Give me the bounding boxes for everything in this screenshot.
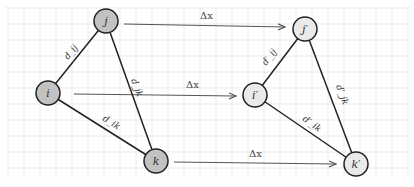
- node-i-prime: i′: [243, 83, 267, 107]
- translation-diagram: Δx Δx Δx d_ij d_jk d_ik d′_ij d′_jk d′_i…: [0, 0, 414, 187]
- node-j: j: [94, 9, 118, 33]
- node-j-prime: j′: [293, 17, 317, 41]
- edge-ik: [48, 93, 156, 161]
- node-k: k: [144, 149, 168, 173]
- node-k-prime-label: k′: [351, 158, 361, 171]
- edge-iprime-kprime: [255, 95, 356, 164]
- right-triangle-edges: d′_ij d′_jk d′_ik: [255, 29, 356, 164]
- background-grid: [6, 6, 410, 178]
- arrow-i-to-iprime: [74, 94, 236, 96]
- left-triangle-edges: d_ij d_jk d_ik: [48, 21, 156, 161]
- edge-label-dij: d_ij: [62, 42, 81, 61]
- arrow-j-to-jprime: [124, 24, 285, 27]
- node-i: i: [36, 81, 60, 105]
- edge-ij: [48, 21, 106, 93]
- edge-label-dprime-ij: d′_ij: [260, 47, 280, 68]
- delta-label-middle: Δx: [186, 79, 199, 90]
- edge-label-dprime-jk: d′_jk: [333, 83, 350, 106]
- delta-label-bottom: Δx: [249, 148, 262, 159]
- node-k-label: k: [153, 155, 160, 168]
- node-i-prime-label: i′: [252, 89, 259, 102]
- node-i-label: i: [46, 87, 50, 100]
- edge-jk: [106, 21, 156, 161]
- delta-label-top: Δx: [200, 10, 213, 21]
- node-k-prime: k′: [344, 152, 368, 176]
